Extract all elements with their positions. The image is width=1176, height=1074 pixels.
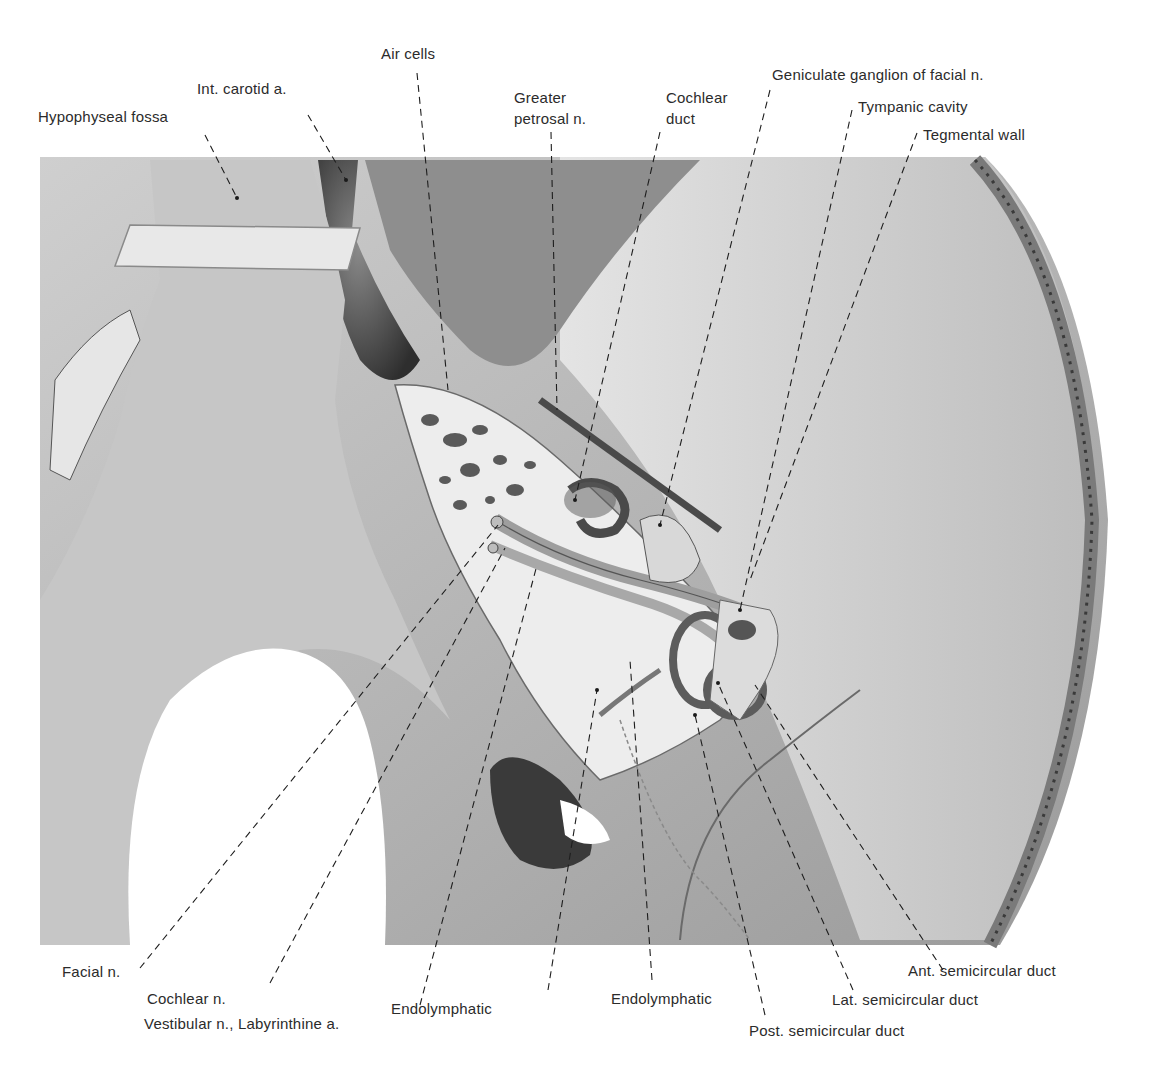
label-facial-n: Facial n. — [62, 963, 121, 981]
label-lat-semicircular-duct: Lat. semicircular duct — [832, 991, 978, 1009]
label-cochlear-duct-line1: Cochlear — [666, 89, 728, 107]
label-post-semicircular-duct: Post. semicircular duct — [749, 1022, 904, 1040]
label-endolymphatic-2: Endolymphatic — [611, 990, 712, 1008]
label-tegmental-wall: Tegmental wall — [923, 126, 1025, 144]
label-ant-semicircular-duct: Ant. semicircular duct — [908, 962, 1056, 980]
label-greater-petrosal-line1: Greater — [514, 89, 566, 107]
label-cochlear-duct-line2: duct — [666, 110, 695, 128]
anatomical-illustration — [0, 0, 1176, 1074]
label-hypophyseal-fossa: Hypophyseal fossa — [38, 108, 168, 126]
label-air-cells: Air cells — [381, 45, 435, 63]
label-vestibular-n: Vestibular n., Labyrinthine a. — [144, 1015, 339, 1033]
dorsum-sellae — [115, 225, 360, 270]
label-tympanic-cavity: Tympanic cavity — [858, 98, 968, 116]
illustration-body — [40, 157, 1108, 945]
label-geniculate-ganglion: Geniculate ganglion of facial n. — [772, 66, 984, 84]
label-greater-petrosal-line2: petrosal n. — [514, 110, 586, 128]
label-int-carotid: Int. carotid a. — [197, 80, 287, 98]
label-cochlear-n: Cochlear n. — [147, 990, 226, 1008]
label-endolymphatic-1: Endolymphatic — [391, 1000, 492, 1018]
